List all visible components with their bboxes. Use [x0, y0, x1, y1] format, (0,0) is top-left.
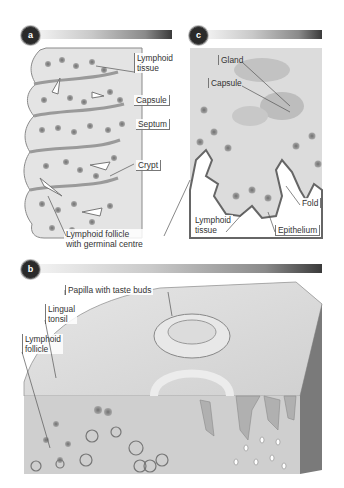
panel-c-badge: c: [189, 26, 208, 45]
tonsil-illustration: [0, 0, 344, 488]
panel-a-art: [24, 48, 142, 238]
panel-b-badge: b: [21, 260, 40, 279]
label-crypt-a: Crypt: [136, 160, 161, 171]
panel-b-header-bar: [38, 264, 322, 273]
panel-c-header-bar: [206, 30, 322, 39]
label-lymphoid-follicle-b: Lymphoid follicle: [22, 334, 63, 354]
label-lymphoid-follicle-a: Lymphoid follicle with germinal centre: [64, 229, 145, 249]
label-lingual-tonsil-b: Lingual tonsil: [45, 304, 77, 324]
label-capsule-a: Capsule: [134, 95, 170, 106]
panel-a-badge: a: [21, 26, 40, 45]
label-gland-c: Gland: [218, 55, 245, 65]
label-lymphoid-tissue-a: Lymphoid tissue: [134, 53, 175, 73]
label-epithelium-c: Epithelium: [275, 225, 320, 236]
panel-a-header-bar: [38, 30, 172, 39]
panel-c-art: [190, 48, 322, 238]
label-papilla-b: Papilla with taste buds: [65, 285, 153, 295]
label-lymphoid-tissue-c: Lymphoid tissue: [193, 215, 233, 235]
label-capsule-c: Capsule: [208, 78, 244, 88]
label-fold-c: Fold: [300, 198, 321, 208]
label-septum-a: Septum: [136, 119, 170, 130]
